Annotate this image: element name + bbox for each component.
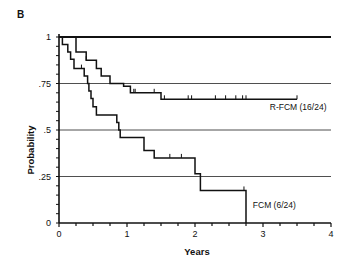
x-axis-title: Years <box>184 246 209 257</box>
x-tick-label: 4 <box>328 229 333 239</box>
x-tick-label: 3 <box>260 229 265 239</box>
y-tick-label: 1 <box>46 32 51 42</box>
y-tick-label: 0 <box>46 218 51 228</box>
series-annotation: R-FCM (16/24) <box>270 102 327 112</box>
y-axis-title: Probability <box>25 125 36 175</box>
series-annotation: FCM (6/24) <box>253 200 296 210</box>
x-tick-label: 0 <box>56 229 61 239</box>
y-tick-label: .25 <box>38 172 51 182</box>
x-tick-label: 1 <box>124 229 129 239</box>
series-line <box>59 37 297 99</box>
kaplan-meier-chart: 012340.25.5.751YearsProbabilityR-FCM (16… <box>0 0 348 269</box>
y-tick-label: .5 <box>43 125 51 135</box>
y-tick-label: .75 <box>38 79 51 89</box>
axes <box>56 34 331 227</box>
x-tick-label: 2 <box>192 229 197 239</box>
